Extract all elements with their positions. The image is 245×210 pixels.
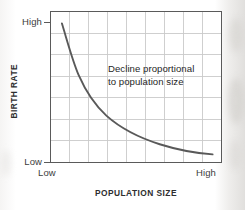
x-axis-title: POPULATION SIZE [50,189,222,197]
y-axis-tick-high [44,22,51,23]
annotation-line-2: to population size [108,76,220,89]
annotation-line-1: Decline proportional [108,63,220,76]
page-canvas: High Low Low High BIRTH RATE POPULATION … [0,0,245,210]
y-axis-label-low: Low [24,157,42,167]
chart-figure: High Low Low High BIRTH RATE POPULATION … [0,0,245,210]
x-axis-label-low: Low [38,168,56,178]
y-axis-label-high: High [22,17,42,27]
y-axis-title: BIRTH RATE [10,49,18,133]
chart-annotation: Decline proportional to population size [108,63,220,89]
y-axis-tick-low [44,162,51,163]
x-axis-label-high: High [196,168,216,178]
